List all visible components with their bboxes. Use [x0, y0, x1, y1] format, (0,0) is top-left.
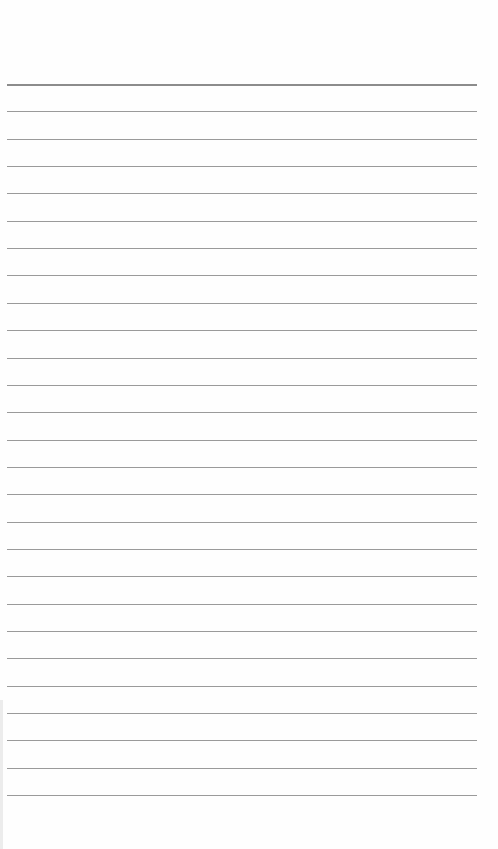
rule-line — [7, 111, 477, 112]
rule-line — [7, 358, 477, 359]
rule-line — [7, 330, 477, 331]
rule-line — [7, 166, 477, 167]
rule-line — [7, 221, 477, 222]
rule-line — [7, 385, 477, 386]
lined-paper-page — [0, 0, 498, 849]
page-edge-shadow — [0, 700, 3, 849]
rule-line — [7, 412, 477, 413]
rule-line — [7, 795, 477, 796]
rule-line — [7, 740, 477, 741]
rule-line — [7, 303, 477, 304]
rule-line — [7, 440, 477, 441]
rule-line — [7, 713, 477, 714]
rule-line — [7, 467, 477, 468]
rule-line — [7, 768, 477, 769]
rule-line — [7, 139, 477, 140]
rule-line — [7, 494, 477, 495]
rule-line — [7, 604, 477, 605]
rule-line — [7, 549, 477, 550]
rule-line — [7, 576, 477, 577]
rule-line — [7, 631, 477, 632]
rule-line — [7, 522, 477, 523]
rule-line — [7, 248, 477, 249]
rule-line — [7, 275, 477, 276]
rule-line — [7, 193, 477, 194]
rule-line — [7, 686, 477, 687]
header-rule-line — [7, 84, 477, 86]
rule-line — [7, 658, 477, 659]
